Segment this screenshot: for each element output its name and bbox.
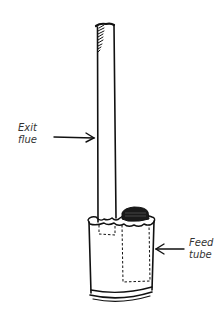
stove-drawing [0, 0, 224, 317]
can-body [88, 215, 155, 301]
feed-tube-label-line2: tube [189, 249, 213, 261]
feed-tube-dashed [122, 224, 150, 282]
exit-flue-arrow [54, 133, 94, 142]
feed-tube-arrow [156, 244, 184, 254]
exit-flue-label: Exit flue [18, 122, 37, 146]
feed-tube-label: Feed tube [189, 237, 213, 261]
flue-inner-dashed [99, 225, 115, 235]
exit-flue [96, 24, 116, 222]
exit-flue-label-line1: Exit [18, 122, 37, 134]
exit-flue-label-line2: flue [18, 134, 37, 146]
feed-tube-cap [122, 207, 149, 221]
feed-tube-label-line1: Feed [189, 237, 213, 249]
stove-diagram: Exit flue Feed tube [0, 0, 224, 317]
